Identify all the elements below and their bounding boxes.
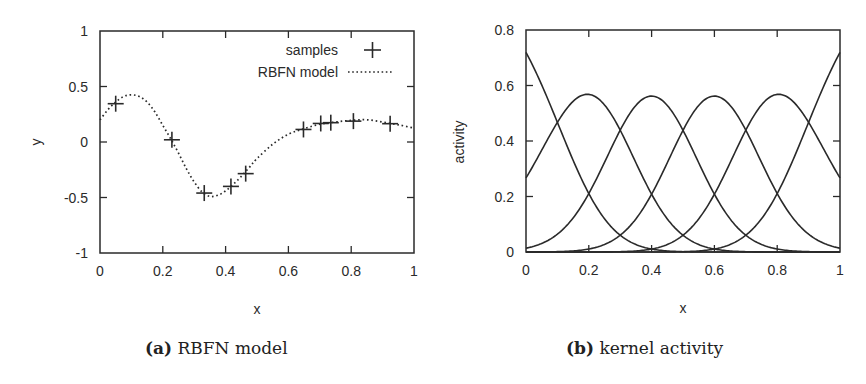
kernel-curve [526, 94, 840, 252]
legend-plus-icon [364, 42, 381, 58]
x-tick-label: 0 [96, 263, 104, 279]
y-tick-label: -0.5 [64, 190, 88, 206]
caption-a: (a) RBFN model [145, 338, 288, 358]
y-tick-label: 0 [506, 244, 514, 260]
y-tick-label: 0.4 [495, 133, 515, 149]
kernel-curves [526, 52, 840, 252]
legend-label-rbfn-model: RBFN model [258, 64, 338, 80]
x-axis-label: x [254, 301, 261, 317]
caption-a-text: RBFN model [178, 338, 288, 358]
x-tick-label: 1 [836, 262, 844, 278]
kernel-curve [526, 52, 840, 252]
x-tick-label: 0.6 [279, 263, 299, 279]
sample-plus-icon [323, 115, 339, 131]
y-tick-label: 0.6 [495, 78, 515, 94]
rbfn-model-curve [100, 95, 414, 197]
y-tick-label: 0.8 [495, 22, 515, 38]
caption-b-tag: (b) [566, 338, 594, 358]
x-tick-label: 0.6 [705, 262, 725, 278]
x-tick-label: 0.4 [216, 263, 236, 279]
x-tick-label: 0.2 [579, 262, 599, 278]
caption-b-text: kernel activity [599, 338, 723, 358]
sample-plus-icon [164, 132, 180, 148]
sample-plus-icon [382, 116, 398, 132]
left-axes: 00.20.40.60.8110.50-0.5-1 [64, 23, 418, 279]
y-tick-label: -1 [76, 245, 89, 261]
y-tick-label: 0 [80, 134, 88, 150]
kernel-curve [526, 96, 840, 252]
sample-markers [108, 96, 398, 201]
sample-plus-icon [295, 121, 311, 137]
y-tick-label: 0.5 [69, 79, 89, 95]
kernel-curve [526, 94, 840, 252]
caption-a-tag: (a) [145, 338, 172, 358]
y-tick-label: 1 [80, 23, 88, 39]
x-tick-label: 0.8 [341, 263, 361, 279]
x-tick-label: 0.4 [642, 262, 662, 278]
legend-label-samples: samples [286, 42, 338, 58]
x-tick-label: 0 [522, 262, 530, 278]
sample-plus-icon [345, 113, 361, 129]
right-axes: 00.20.40.60.810.80.60.40.20 [495, 22, 845, 278]
kernel-curve [526, 52, 840, 252]
rbfn-model-chart: 00.20.40.60.8110.50-0.5-1 samples RBFN m… [28, 23, 418, 317]
x-tick-label: 0.2 [153, 263, 173, 279]
kernel-activity-chart: 00.20.40.60.810.80.60.40.20 activity x [451, 22, 844, 316]
rbfn-model-line [100, 95, 414, 197]
kernel-curve [526, 96, 840, 252]
y-axis-label: y [28, 139, 44, 146]
y-axis-label-activity: activity [451, 121, 467, 164]
x-axis-label-kernel: x [680, 300, 687, 316]
legend: samples RBFN model [258, 42, 392, 80]
x-tick-label: 1 [410, 263, 418, 279]
sample-plus-icon [238, 166, 254, 182]
x-tick-label: 0.8 [767, 262, 787, 278]
figure-canvas: 00.20.40.60.8110.50-0.5-1 samples RBFN m… [0, 0, 866, 384]
y-tick-label: 0.2 [495, 189, 515, 205]
caption-b: (b) kernel activity [566, 338, 723, 358]
sample-plus-icon [108, 96, 124, 112]
